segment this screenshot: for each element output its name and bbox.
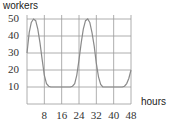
x-tick-label: 8 xyxy=(42,110,48,121)
x-tick-label: 16 xyxy=(56,110,67,121)
x-axis-label: hours xyxy=(141,97,166,107)
y-tick-label: 50 xyxy=(8,13,19,24)
chart-plot xyxy=(0,0,174,127)
x-tick-label: 32 xyxy=(91,110,102,121)
y-tick-label: 40 xyxy=(8,30,19,41)
y-tick-label: 20 xyxy=(8,64,19,75)
y-axis-label: workers xyxy=(3,1,38,11)
y-tick-label: 30 xyxy=(8,47,19,58)
x-tick-label: 48 xyxy=(126,110,137,121)
y-tick-label: 10 xyxy=(8,81,19,92)
x-tick-label: 40 xyxy=(108,110,119,121)
x-tick-label: 24 xyxy=(74,110,85,121)
